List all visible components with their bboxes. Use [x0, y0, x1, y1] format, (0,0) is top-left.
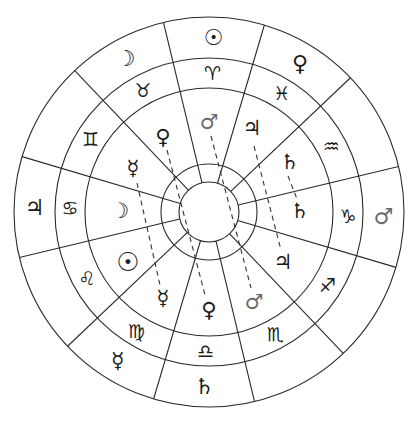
dashed-link-saturn [288, 176, 297, 199]
saturn-planet-icon: ♄ [281, 150, 300, 174]
sagittarius-sign-icon: ♐ [319, 274, 336, 296]
scorpio-sign-icon: ♏ [267, 323, 284, 345]
spoke-line [216, 241, 255, 401]
spoke-line [238, 221, 396, 268]
jupiter-planet-icon: ♃ [25, 195, 45, 220]
inner-planet-ring: ♀♂♃♄♄♃♂♀☿☉☽☿ [111, 110, 310, 322]
saturn-planet-icon: ♄ [195, 374, 215, 399]
jupiter-planet-icon: ♃ [243, 116, 262, 140]
moon-planet-icon: ☽ [116, 46, 136, 71]
mercury-planet-icon: ☿ [157, 286, 170, 310]
aries-sign-icon: ♈ [204, 62, 221, 84]
spoke-line [154, 241, 201, 399]
taurus-sign-icon: ♉ [134, 79, 151, 101]
venus-planet-icon: ♀ [292, 51, 308, 76]
spoke-line [19, 219, 179, 258]
mars-planet-icon: ♂ [200, 110, 219, 134]
virgo-sign-icon: ♍ [128, 320, 145, 342]
leo-sign-icon: ♌ [78, 267, 95, 289]
astrological-chart: ♈♓♒♑♐♏♎♍♌♋♊♉ ☉♀♂♄☿♃☽ ♀♂♃♄♄♃♂♀☿☉☽☿ [0, 0, 418, 429]
dashed-link-mars [211, 136, 251, 288]
pisces-sign-icon: ♓ [273, 82, 290, 104]
capricorn-sign-icon: ♑ [339, 205, 356, 227]
sun-planet-icon: ☉ [204, 25, 224, 50]
spoke-line [238, 166, 398, 205]
spoke-line [22, 157, 180, 204]
libra-sign-icon: ♎ [197, 340, 214, 362]
venus-planet-icon: ♀ [201, 298, 216, 322]
ring-hub-ring [161, 164, 257, 260]
ring-hub [179, 182, 239, 242]
mars-planet-icon: ♂ [374, 204, 394, 229]
aquarius-sign-icon: ♒ [323, 135, 340, 157]
moon-planet-icon: ☽ [111, 199, 130, 223]
sun-planet-icon: ☉ [116, 247, 139, 277]
gemini-sign-icon: ♊ [82, 128, 99, 150]
saturn-planet-icon: ♄ [291, 199, 310, 223]
mercury-planet-icon: ☿ [127, 156, 140, 180]
mars-planet-icon: ♂ [245, 290, 264, 314]
mercury-planet-icon: ☿ [111, 348, 125, 373]
jupiter-planet-icon: ♃ [274, 250, 293, 274]
venus-planet-icon: ♀ [155, 125, 170, 149]
cancer-sign-icon: ♋ [62, 197, 79, 219]
